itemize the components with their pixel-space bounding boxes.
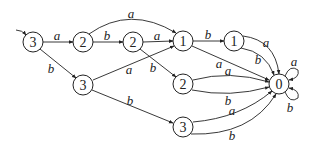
- edge-label: a: [291, 54, 298, 69]
- edge-label: a: [229, 103, 236, 118]
- edge-label: b: [48, 61, 55, 76]
- svg-text:3: 3: [180, 120, 187, 135]
- edge-label: b: [150, 60, 157, 75]
- state-node: 3: [173, 117, 193, 137]
- start-arrow: [16, 30, 26, 35]
- svg-text:3: 3: [80, 78, 87, 93]
- svg-text:2: 2: [80, 35, 87, 50]
- edge-label: b: [229, 128, 236, 143]
- accepting-state-node: 0: [269, 74, 289, 94]
- state-node: 2: [73, 32, 93, 52]
- edge-label: b: [255, 52, 262, 67]
- svg-text:1: 1: [231, 34, 238, 49]
- edge-label: b: [127, 93, 134, 108]
- svg-text:2: 2: [180, 77, 187, 92]
- svg-text:2: 2: [130, 35, 137, 50]
- edge-label: b: [205, 27, 212, 42]
- edge-label: a: [225, 63, 232, 78]
- state-node: 2: [173, 74, 193, 94]
- edge-label: a: [216, 56, 223, 71]
- automaton-diagram: a b b a a b a b b a a b a b a b a b 3 2 …: [0, 0, 311, 148]
- edge-3-b-3: [40, 49, 76, 78]
- edge-label: a: [126, 62, 133, 77]
- state-node: 3: [73, 75, 93, 95]
- edge-label: a: [128, 6, 135, 21]
- state-node: 3: [23, 32, 43, 52]
- edge-label: b: [104, 28, 111, 43]
- state-node: 1: [224, 31, 244, 51]
- edge-label: a: [263, 35, 270, 50]
- svg-text:3: 3: [30, 35, 37, 50]
- svg-text:1: 1: [180, 34, 187, 49]
- state-node: 2: [123, 32, 143, 52]
- svg-text:0: 0: [276, 77, 283, 92]
- edge-label: a: [54, 28, 61, 43]
- edge-label: a: [154, 28, 161, 43]
- edge-label: b: [287, 100, 294, 115]
- state-node: 1: [173, 31, 193, 51]
